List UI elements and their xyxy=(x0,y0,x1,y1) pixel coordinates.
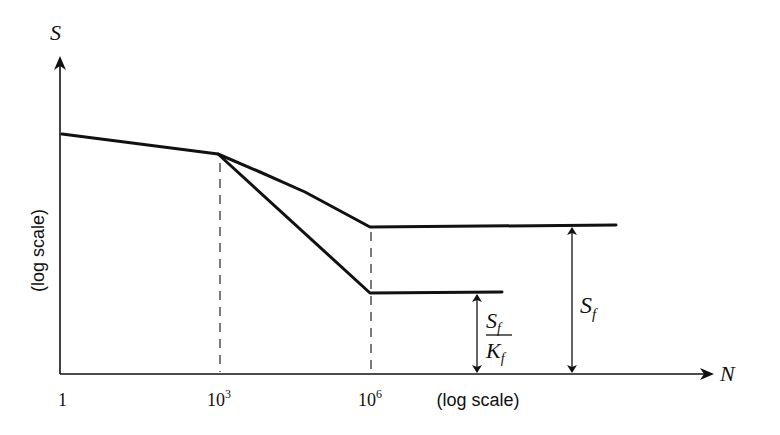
svg-text:Kf: Kf xyxy=(485,338,507,366)
unnotched-curve xyxy=(62,134,616,227)
sf-label: Sf xyxy=(580,292,598,322)
x-axis-scale-label: (log scale) xyxy=(436,390,519,410)
notched-curve xyxy=(218,154,502,293)
svg-text:Sf: Sf xyxy=(486,308,503,336)
x-axis-symbol: N xyxy=(719,361,736,386)
y-axis-symbol: S xyxy=(50,20,61,45)
x-tick-label-1e6: 106 xyxy=(358,387,382,410)
sn-diagram: S N (log scale) (log scale) 1 103 106 Sf… xyxy=(0,0,780,435)
sf-over-kf-label: Sf Kf xyxy=(485,308,512,366)
x-tick-label-1: 1 xyxy=(58,390,67,410)
x-tick-label-1e3: 103 xyxy=(207,387,231,410)
y-axis-scale-label: (log scale) xyxy=(28,209,48,292)
